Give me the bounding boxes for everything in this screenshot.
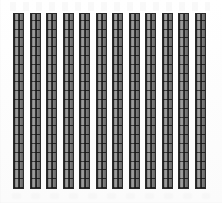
bar-centre-seam	[150, 14, 151, 188]
bar-centre-seam	[51, 14, 52, 188]
bar-7	[112, 13, 123, 189]
bar-3	[46, 13, 57, 189]
plot-area	[0, 0, 222, 203]
bar-centre-seam	[68, 14, 69, 188]
bar-centre-seam	[101, 14, 102, 188]
bar-centre-seam	[134, 14, 135, 188]
bar-centre-seam	[18, 14, 19, 188]
bar-11	[178, 13, 189, 189]
bar-8	[129, 13, 140, 189]
bar-centre-seam	[35, 14, 36, 188]
bar-centre-seam	[183, 14, 184, 188]
bar-2	[30, 13, 41, 189]
bar-1	[13, 13, 24, 189]
bar-centre-seam	[117, 14, 118, 188]
bar-centre-seam	[200, 14, 201, 188]
bar-centre-seam	[84, 14, 85, 188]
bar-12	[195, 13, 206, 189]
bar-9	[145, 13, 156, 189]
bar-6	[96, 13, 107, 189]
bar-5	[79, 13, 90, 189]
bar-centre-seam	[167, 14, 168, 188]
bar-10	[162, 13, 173, 189]
bar-4	[63, 13, 74, 189]
chart-figure	[0, 0, 222, 203]
